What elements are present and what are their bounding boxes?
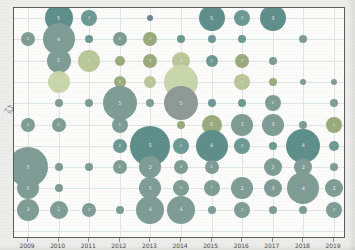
bubble-point[interactable]: 2	[113, 160, 127, 174]
bubble-point[interactable]: 5	[47, 49, 71, 73]
bubble-point[interactable]: 1	[177, 35, 185, 43]
bubble-value-label: 2	[332, 186, 335, 191]
bubble-point[interactable]: 1	[238, 35, 246, 43]
bubble-point[interactable]: 4	[287, 172, 319, 204]
x-axis-tick-label: 2012	[111, 242, 126, 249]
bubble-point[interactable]: 2	[234, 138, 250, 154]
bubble-point[interactable]: 1	[269, 142, 277, 150]
bubble-point[interactable]: 2	[174, 160, 188, 174]
bubble-point[interactable]: 1	[85, 35, 93, 43]
bubble-point[interactable]: 4	[196, 130, 228, 162]
bubble-point[interactable]: 1	[299, 206, 307, 214]
bubble-point[interactable]: 2	[235, 54, 249, 68]
bubble-point[interactable]: 2	[82, 203, 96, 217]
x-axis-tick-label: 2017	[264, 242, 279, 249]
bubble-point[interactable]: 2	[52, 118, 66, 132]
bubble-point[interactable]: 2	[81, 10, 97, 26]
bubble-point[interactable]: 2	[234, 10, 250, 26]
bubble-point[interactable]: 2	[144, 76, 156, 88]
bubble-point[interactable]: 2	[173, 138, 189, 154]
bubble-point[interactable]: 5	[103, 86, 137, 120]
bubble-point[interactable]: 2	[173, 180, 189, 196]
bubble-point[interactable]: 1	[55, 163, 63, 171]
bubble-value-label: 5	[26, 186, 29, 191]
bubble-value-label: 1	[88, 58, 91, 63]
bubble-value-label: 5	[26, 165, 29, 170]
bubble-point[interactable]: 2	[265, 95, 281, 111]
bubble-point[interactable]: 2	[143, 54, 157, 68]
bubble-point[interactable]: 1	[269, 57, 277, 65]
bubble-value-label: 3	[271, 186, 274, 191]
bubble-point[interactable]: 5	[17, 177, 39, 199]
bubble-point[interactable]: 1	[208, 35, 216, 43]
bubble-point[interactable]: 1	[299, 121, 307, 129]
bubble-point[interactable]: 5	[199, 7, 225, 31]
bubble-point[interactable]: 1	[329, 141, 339, 151]
bubble-value-label: 2	[180, 187, 183, 191]
bubble-point[interactable]: 1	[299, 35, 307, 43]
bubble-point[interactable]: 2	[205, 160, 219, 174]
bubble-point[interactable]: 1	[147, 15, 153, 21]
plot-frame: 5215232412211115112122132252111115151121…	[13, 7, 345, 238]
bubble-value-label: 2	[27, 123, 30, 127]
bubble-value-label: 4	[302, 186, 305, 191]
bubble-value-label: 2	[119, 37, 122, 41]
bubble-point[interactable]: 1	[85, 163, 93, 171]
bubble-value-label: 2	[149, 59, 152, 63]
bubble-point[interactable]: 2	[21, 118, 35, 132]
bubble-value-label: 2	[241, 80, 244, 84]
bubble-point[interactable]: 1	[146, 99, 154, 107]
bubble-point[interactable]: 2	[113, 139, 127, 153]
bubble-point[interactable]: 3	[264, 179, 282, 197]
bubble-point[interactable]: 3	[17, 199, 39, 221]
bubble-point[interactable]: 2	[21, 32, 35, 46]
bubble-point[interactable]: 4	[136, 196, 164, 224]
bubble-point[interactable]: 1	[208, 99, 216, 107]
bubble-point[interactable]: 7	[204, 180, 220, 196]
bubble-point[interactable]: 2	[234, 74, 250, 90]
bubble-point[interactable]: 3	[260, 7, 286, 31]
bubble-value-label: 3	[57, 80, 60, 85]
bubble-point[interactable]: 2	[326, 202, 342, 218]
bubble-point[interactable]: 2	[139, 156, 161, 178]
bubble-point[interactable]: 1	[55, 99, 63, 107]
bubble-value-label: 2	[119, 144, 122, 148]
bubble-point[interactable]: 1	[208, 206, 216, 214]
bubble-point[interactable]: 1	[116, 206, 124, 214]
bubble-point[interactable]: 4	[167, 196, 195, 224]
bubble-point[interactable]: 1	[85, 99, 93, 107]
bubble-point[interactable]: 2	[143, 32, 157, 46]
bubble-point[interactable]: 1	[330, 163, 338, 171]
bubble-point[interactable]: 3	[262, 114, 284, 136]
bubble-value-label: 2	[333, 208, 336, 212]
bubble-value-label: 2	[119, 165, 122, 169]
bubble-value-label: 2	[180, 165, 183, 169]
bubble-point[interactable]: 2	[113, 32, 127, 46]
bubble-point[interactable]: 1	[330, 99, 338, 107]
bubble-point[interactable]: 1	[50, 201, 68, 219]
bubble-point[interactable]: 2	[325, 179, 343, 197]
bubble-point[interactable]: 1	[331, 79, 337, 85]
x-axis-tick-label: 2014	[173, 242, 188, 249]
bubble-point[interactable]: 3	[48, 71, 70, 93]
bubble-point[interactable]: 1	[269, 206, 277, 214]
bubble-point[interactable]: 3	[231, 114, 253, 136]
bubble-point[interactable]: 1	[238, 99, 246, 107]
x-axis-tick-label: 2016	[234, 242, 249, 249]
bubble-point[interactable]: 1	[78, 50, 100, 72]
bubble-value-label: 4	[57, 37, 60, 42]
bubble-point[interactable]: 1	[112, 117, 128, 133]
bubble-point[interactable]: 2	[264, 158, 282, 176]
bubble-point[interactable]: 2	[231, 177, 253, 199]
bubble-point[interactable]: 2	[206, 55, 218, 67]
bubble-point[interactable]: 5	[164, 86, 198, 120]
bubble-point[interactable]: 1	[115, 56, 125, 66]
bubble-point[interactable]: 1	[55, 184, 63, 192]
bubble-point[interactable]: 2	[234, 202, 250, 218]
bubble-point[interactable]: 1	[269, 78, 277, 86]
bubble-point[interactable]: 1	[177, 121, 185, 129]
bubble-value-label: 2	[241, 186, 244, 191]
bubble-point[interactable]: 1	[300, 79, 306, 85]
bubble-value-label: 5	[57, 58, 60, 63]
bubble-point[interactable]: 2	[326, 117, 342, 133]
